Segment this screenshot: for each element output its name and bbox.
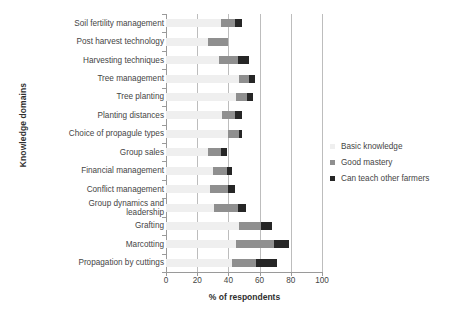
- bar-segment: [261, 222, 272, 230]
- bar-row: [166, 185, 322, 193]
- bar-segment: [249, 75, 255, 83]
- bar-segment: [239, 75, 248, 83]
- gridline-40: [228, 14, 229, 272]
- category-label: Grafting: [22, 221, 164, 230]
- bar-segment: [166, 56, 219, 64]
- bar-segment: [166, 148, 208, 156]
- bar-segment: [210, 185, 229, 193]
- bar-segment: [232, 259, 257, 267]
- x-axis-tick-labels: 020406080100: [166, 276, 336, 288]
- category-label: Tree planting: [22, 92, 164, 101]
- legend-label: Good mastery: [341, 158, 392, 167]
- x-axis-title: % of respondents: [166, 292, 323, 302]
- bar-segment: [166, 259, 232, 267]
- y-tick: [162, 217, 166, 218]
- x-tick-label: 20: [185, 276, 209, 285]
- category-label: Planting distances: [22, 111, 164, 120]
- bar-segment: [166, 111, 222, 119]
- category-label: Propagation by cuttings: [22, 258, 164, 267]
- gridline-60: [260, 14, 261, 272]
- category-label: Harvesting techniques: [22, 56, 164, 65]
- bar-segment: [227, 167, 232, 175]
- bar-segment: [214, 204, 237, 212]
- category-label: Post harvest technology: [22, 37, 164, 46]
- bar-row: [166, 93, 322, 101]
- bar-segment: [166, 167, 213, 175]
- x-tick-label: 100: [310, 276, 334, 285]
- x-tick-label: 0: [154, 276, 178, 285]
- bar-segment: [239, 130, 242, 138]
- legend-swatch-icon: [330, 144, 335, 149]
- bar-segment: [238, 56, 249, 64]
- category-label: Financial management: [22, 166, 164, 175]
- bar-segment: [208, 38, 228, 46]
- y-tick: [162, 14, 166, 15]
- category-label: Tree management: [22, 74, 164, 83]
- category-label: Marcotting: [22, 240, 164, 249]
- y-tick: [162, 272, 166, 273]
- bar-row: [166, 38, 322, 46]
- category-label: Conflict management: [22, 185, 164, 194]
- bar-segment: [166, 75, 239, 83]
- category-label: Group sales: [22, 148, 164, 157]
- bar-segment: [238, 204, 246, 212]
- bar-row: [166, 167, 322, 175]
- gridline-100: [322, 14, 323, 272]
- legend-item: Good mastery: [330, 154, 456, 170]
- bar-segment: [256, 259, 276, 267]
- bar-row: [166, 56, 322, 64]
- category-label: Soil fertility management: [22, 19, 164, 28]
- category-label: Group dynamics and leadership: [22, 199, 164, 217]
- bar-segment: [228, 130, 239, 138]
- bar-segment: [228, 185, 234, 193]
- bar-segment: [239, 222, 261, 230]
- plot-area: [166, 14, 322, 272]
- legend-item: Can teach other farmers: [330, 170, 456, 186]
- legend-swatch-icon: [330, 160, 335, 165]
- bar-segment: [166, 222, 239, 230]
- bar-row: [166, 204, 322, 212]
- y-tick: [162, 88, 166, 89]
- bar-segment: [166, 130, 228, 138]
- y-tick: [162, 69, 166, 70]
- bar-segment: [247, 93, 253, 101]
- y-tick: [162, 106, 166, 107]
- chart-legend: Basic knowledgeGood masteryCan teach oth…: [330, 138, 456, 186]
- bar-segment: [166, 19, 221, 27]
- legend-label: Basic knowledge: [341, 142, 402, 151]
- y-tick: [162, 143, 166, 144]
- bar-row: [166, 240, 322, 248]
- legend-label: Can teach other farmers: [341, 174, 429, 183]
- bar-segment: [235, 111, 243, 119]
- x-tick-label: 80: [279, 276, 303, 285]
- y-tick: [162, 198, 166, 199]
- bar-segment: [222, 111, 234, 119]
- bar-segment: [219, 56, 238, 64]
- bar-segment: [208, 148, 220, 156]
- legend-swatch-icon: [330, 176, 335, 181]
- bar-segment: [221, 148, 227, 156]
- y-tick: [162, 235, 166, 236]
- y-tick: [162, 254, 166, 255]
- bar-row: [166, 222, 322, 230]
- y-tick: [162, 125, 166, 126]
- bar-segment: [166, 240, 236, 248]
- bar-row: [166, 130, 322, 138]
- bar-row: [166, 259, 322, 267]
- y-tick: [162, 180, 166, 181]
- bar-segment: [235, 19, 243, 27]
- chart-figure: Knowledge domains Soil fertility managem…: [0, 0, 458, 331]
- bar-segment: [236, 240, 273, 248]
- bar-segment: [166, 204, 214, 212]
- y-tick: [162, 161, 166, 162]
- y-tick: [162, 51, 166, 52]
- bar-row: [166, 19, 322, 27]
- y-tick: [162, 32, 166, 33]
- bar-row: [166, 148, 322, 156]
- x-tick-label: 40: [216, 276, 240, 285]
- bar-segment: [236, 93, 247, 101]
- bar-row: [166, 75, 322, 83]
- bar-segment: [166, 93, 236, 101]
- bar-segment: [213, 167, 227, 175]
- category-label: Choice of propagule types: [22, 129, 164, 138]
